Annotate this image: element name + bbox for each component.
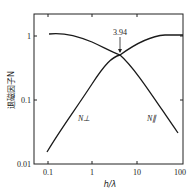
plot-frame <box>34 14 183 164</box>
chart: 1 0.1 0.01 退磁因子N 0.1 1 10 100 h/λ 3.94 N… <box>0 0 195 194</box>
y-tick-0.1: 0.1 <box>21 96 31 105</box>
label-n-par: N∥ <box>146 114 157 123</box>
annotation-3.94: 3.94 <box>113 28 127 53</box>
svg-text:3.94: 3.94 <box>113 28 127 37</box>
y-tick-0.01: 0.01 <box>17 160 31 169</box>
x-tick-0.1: 0.1 <box>43 168 53 177</box>
x-axis: 0.1 1 10 100 h/λ <box>43 14 186 189</box>
x-tick-10: 10 <box>133 168 141 177</box>
y-tick-1: 1 <box>27 32 31 41</box>
x-axis-label: h/λ <box>104 180 117 189</box>
x-tick-100: 100 <box>174 168 186 177</box>
y-axis-label: 退磁因子N <box>6 71 16 109</box>
x-tick-1: 1 <box>90 168 94 177</box>
label-n-perp: N⊥ <box>77 114 90 123</box>
